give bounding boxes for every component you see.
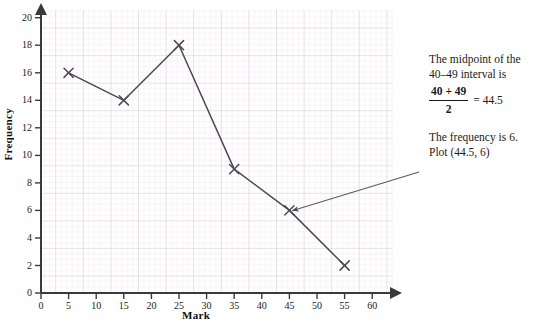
y-tick-label: 10 <box>22 150 32 160</box>
grid-background <box>41 10 393 293</box>
fraction-denominator: 2 <box>429 101 468 117</box>
x-tick-label: 5 <box>66 301 71 311</box>
y-tick-label: 2 <box>27 261 32 271</box>
x-tick-label: 40 <box>257 301 267 311</box>
x-tick-label: 45 <box>284 301 294 311</box>
annotation-midpoint-formula: 40 + 49 2 = 44.5 <box>429 84 545 116</box>
annotation-frequency: The frequency is 6. Plot (44.5, 6) <box>429 130 545 159</box>
x-tick-label: 50 <box>312 301 322 311</box>
x-tick-label: 35 <box>229 301 239 311</box>
x-axis-title: Mark <box>182 309 210 321</box>
x-tick-label: 15 <box>119 301 129 311</box>
annotation-frequency-line1: The frequency is 6. <box>429 130 545 145</box>
fraction: 40 + 49 2 <box>429 84 468 116</box>
fraction-numerator: 40 + 49 <box>429 84 468 101</box>
y-tick-label: 8 <box>27 178 32 188</box>
fraction-result: = 44.5 <box>473 93 503 108</box>
x-tick-label: 10 <box>91 301 101 311</box>
frequency-polygon-figure: 0 2 4 6 8 10 12 14 16 18 20 0 5 10 15 20… <box>0 0 545 328</box>
annotation-midpoint: The midpoint of the 40–49 interval is 40… <box>429 52 545 117</box>
y-tick-label: 4 <box>27 233 32 243</box>
y-tick-label: 0 <box>27 288 32 298</box>
y-tick-label: 18 <box>22 40 32 50</box>
y-tick-label: 16 <box>22 68 32 78</box>
chart-svg <box>0 0 420 328</box>
annotation-midpoint-line2: 40–49 interval is <box>429 67 545 82</box>
annotation-frequency-line2: Plot (44.5, 6) <box>429 145 545 160</box>
x-tick-label: 0 <box>39 301 44 311</box>
x-tick-label: 60 <box>367 301 377 311</box>
y-tick-label: 14 <box>22 95 32 105</box>
y-axis-title: Frequency <box>2 108 18 161</box>
chart-plot-area: 0 2 4 6 8 10 12 14 16 18 20 0 5 10 15 20… <box>0 0 420 328</box>
annotation-midpoint-line1: The midpoint of the <box>429 52 545 67</box>
y-tick-label: 12 <box>22 123 32 133</box>
x-tick-label: 55 <box>340 301 350 311</box>
x-tick-label: 20 <box>146 301 156 311</box>
y-tick-label: 20 <box>22 13 32 23</box>
y-tick-label: 6 <box>27 205 32 215</box>
